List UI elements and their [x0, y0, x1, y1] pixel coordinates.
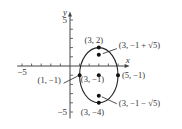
data-point [97, 46, 101, 50]
point-label: (3, −1) [81, 74, 104, 84]
point-label: (3, −1 + √5) [119, 40, 160, 50]
data-point [116, 73, 120, 77]
x-tick-label: −5 [17, 67, 27, 77]
point-label: (3, −1 − √5) [119, 98, 160, 108]
data-point [97, 101, 101, 105]
data-point [97, 53, 101, 57]
point-label: (1, −1) [38, 75, 61, 85]
chart: xy−55−5(3, 2)(3, −1 + √5)(1, −1)(3, −1)(… [0, 0, 182, 129]
y-tick-label: −5 [57, 107, 67, 117]
x-axis-label: x [125, 55, 130, 65]
leader-line [64, 76, 78, 83]
y-axis-arrow [68, 11, 72, 16]
point-label: (5, −1) [122, 70, 145, 80]
point-label: (3, −4) [81, 107, 104, 117]
data-point [97, 94, 101, 98]
y-tick-label: 5 [63, 15, 68, 25]
point-label: (3, 2) [85, 35, 104, 45]
